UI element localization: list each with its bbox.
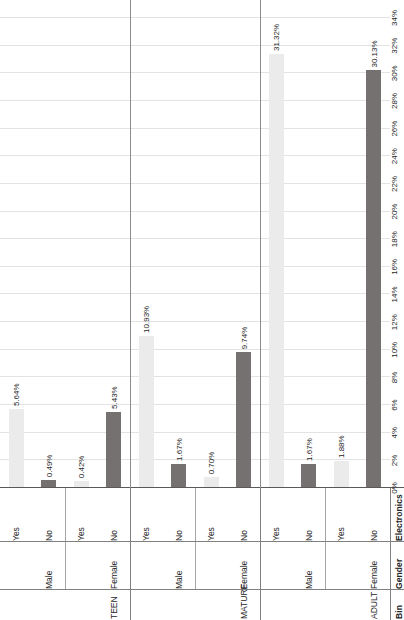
bar-value-label: 5.64% [12,383,21,406]
category-cell-bin: ADULT [369,592,379,619]
category-row: Yes [130,488,163,620]
category-row: MaleNo [293,488,326,620]
axis-tick-label: 34% [390,10,399,26]
category-row: MaleNo [163,488,196,620]
axis-tick-label: 28% [390,93,399,109]
axis-tick-label: 24% [390,148,399,164]
gridline [0,17,390,18]
category-row: Yes [195,488,228,620]
gender-column-divider [0,589,404,590]
bar-no [171,464,186,487]
category-cell-gender: Female [109,561,119,589]
axis-tick-label: 20% [390,204,399,220]
bar-yes [139,336,154,487]
column-header-gender: Gender [394,559,404,589]
column-header-bin: Bin [394,605,404,619]
axis-tick-label: 2% [390,455,399,467]
axis-tick-label: 0% [390,482,399,494]
axis-tick-label: 30% [390,65,399,81]
category-cell-bin: TEEN [109,596,119,619]
gridline [0,72,390,73]
gridline [0,349,390,350]
gridline [0,238,390,239]
category-row: MaleNo [33,488,66,620]
bar-chart: Bin Gender Electronics ADULTFemaleNoYesM… [0,0,404,620]
category-row: MATUREFemaleNo [228,488,261,620]
bar-value-label: 0.49% [44,455,53,478]
axis-tick-label: 6% [390,399,399,411]
axis-tick-label: 32% [390,38,399,54]
gridline [0,155,390,156]
bar-no [236,352,251,487]
gender-group-separator [195,488,196,590]
bar-value-label: 0.70% [207,452,216,475]
category-row: Yes [325,488,358,620]
category-cell-electronics: No [239,530,249,541]
gridline [0,128,390,129]
bar-value-label: 1.67% [304,438,313,461]
bar-no [301,464,316,487]
axis-tick-label: 10% [390,342,399,358]
bar-yes [204,477,219,487]
gridline [0,211,390,212]
axis-tick-label: 16% [390,259,399,275]
rotated-chart-canvas: Bin Gender Electronics ADULTFemaleNoYesM… [0,0,404,620]
bar-value-label: 5.43% [109,386,118,409]
category-row: ADULTFemaleNo [358,488,391,620]
category-cell-electronics: No [44,530,54,541]
category-cell-electronics: No [304,530,314,541]
category-row: Yes [65,488,98,620]
bar-no [366,71,381,488]
plot-area: Percentage of Electronic Purchases 0%2%4… [0,0,404,488]
bar-value-label: 9.74% [239,327,248,350]
category-cell-electronics: Yes [336,527,346,541]
column-header-electronics: Electronics [394,494,404,541]
category-cell-gender: Female [239,561,249,589]
value-axis-baseline [0,487,404,488]
category-cell-electronics: No [109,530,119,541]
bar-value-label: 1.67% [174,438,183,461]
category-cell-gender: Male [174,571,184,589]
axis-tick-label: 26% [390,121,399,137]
electronics-column-divider [0,541,404,542]
category-cell-electronics: Yes [206,527,216,541]
category-rows: ADULTFemaleNoYesMaleNoYesMATUREFemaleNoY… [0,488,390,620]
category-cell-gender: Female [369,561,379,589]
bar-value-label: 30.13% [369,40,378,67]
bar-yes [334,461,349,487]
bin-group-separator [130,488,131,620]
category-cell-electronics: Yes [11,527,21,541]
axis-tick-label: 4% [390,427,399,439]
category-cell-gender: Male [304,571,314,589]
chart-frame: Bin Gender Electronics ADULTFemaleNoYesM… [0,0,404,620]
category-row: Yes [0,488,33,620]
category-table-header: Bin Gender Electronics [390,488,404,620]
category-cell-electronics: Yes [76,527,86,541]
gender-group-separator [65,488,66,590]
bin-group-separator [260,488,261,620]
bar-value-label: 31.32% [272,24,281,51]
gridline [0,459,390,460]
category-cell-electronics: No [369,530,379,541]
category-table: Bin Gender Electronics ADULTFemaleNoYesM… [0,488,404,620]
category-row: TEENFemaleNo [98,488,131,620]
gridline [0,45,390,46]
category-cell-gender: Male [44,571,54,589]
gridline [0,321,390,322]
gridline [0,376,390,377]
plot-group-separator [130,0,131,488]
gridline [0,404,390,405]
gridline [0,293,390,294]
axis-tick-label: 22% [390,176,399,192]
axis-tick-label: 18% [390,231,399,247]
bar-value-label: 10.93% [142,306,151,333]
plot-group-separator [260,0,261,488]
bar-yes [9,409,24,487]
category-cell-electronics: Yes [271,527,281,541]
gridline [0,183,390,184]
bar-value-label: 0.42% [77,456,86,479]
gridline [0,432,390,433]
gender-group-separator [325,488,326,590]
gridline [0,266,390,267]
gridline [0,100,390,101]
